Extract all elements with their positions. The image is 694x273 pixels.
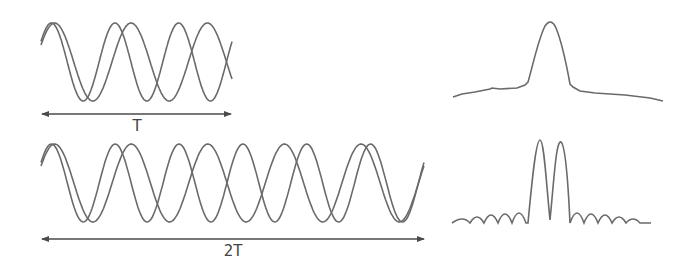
top-period-label: T bbox=[132, 117, 141, 135]
sine-wave bbox=[41, 23, 232, 101]
bottom-waves bbox=[41, 144, 424, 222]
diagram-canvas bbox=[0, 0, 694, 273]
top-waves bbox=[41, 23, 232, 101]
sine-wave bbox=[41, 144, 424, 222]
bottom-period-label: 2T bbox=[224, 242, 243, 260]
bottom-spectrum-two-peaks bbox=[452, 140, 651, 223]
sine-wave bbox=[41, 23, 232, 101]
top-spectrum-broad-peak bbox=[453, 22, 663, 101]
